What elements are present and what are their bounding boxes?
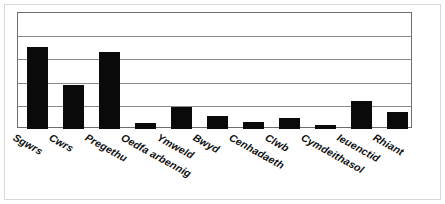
- bar: [63, 85, 84, 129]
- x-axis-label: Bwyd: [191, 131, 222, 155]
- bar: [27, 47, 48, 129]
- bar-series: [18, 13, 413, 129]
- bar: [351, 101, 372, 129]
- bar: [171, 107, 192, 129]
- x-axis-label: Cwrs: [48, 131, 77, 154]
- bar-chart-figure: SgwrsCwrsPregethuOedfa arbennigYmweldBwy…: [0, 0, 445, 204]
- chart-screenshot: SgwrsCwrsPregethuOedfa arbennigYmweldBwy…: [0, 0, 445, 204]
- x-axis-category-labels: SgwrsCwrsPregethuOedfa arbennigYmweldBwy…: [0, 128, 445, 202]
- bar: [387, 112, 408, 129]
- bar: [99, 52, 120, 129]
- x-axis-label: Sgwrs: [12, 131, 46, 157]
- plot-area: [17, 12, 412, 128]
